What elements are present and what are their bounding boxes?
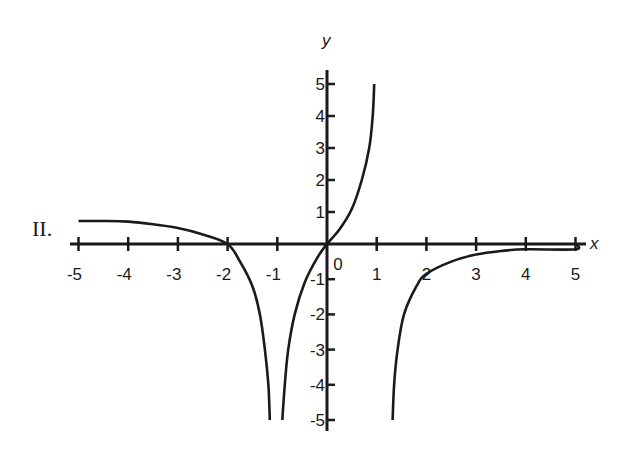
x-tick-label: -4 — [117, 265, 132, 284]
left-branch-curve — [79, 221, 270, 420]
x-tick-label: 0 — [333, 255, 342, 274]
x-axis-label: x — [589, 234, 599, 253]
x-tick-label: 4 — [521, 265, 530, 284]
y-tick-label: 1 — [316, 203, 325, 222]
y-tick-label: 3 — [316, 139, 325, 158]
x-tick-label: -5 — [67, 265, 82, 284]
y-tick-label: -2 — [310, 305, 325, 324]
curves — [79, 84, 580, 420]
y-axis-label: y — [321, 31, 332, 50]
y-tick-label: -4 — [310, 376, 325, 395]
y-tick-label: 5 — [316, 75, 325, 94]
y-tick-label: 2 — [316, 171, 325, 190]
x-tick-label: -3 — [166, 265, 181, 284]
y-tick-label: 4 — [316, 107, 325, 126]
panel-label: II. — [32, 216, 52, 241]
x-tick-label: 1 — [372, 265, 381, 284]
x-tick-label: 3 — [471, 265, 480, 284]
x-tick-label: 5 — [571, 265, 580, 284]
x-tick-label: -1 — [266, 265, 281, 284]
y-tick-label: -1 — [310, 270, 325, 289]
right-branch-curve — [393, 244, 580, 420]
x-tick-label: -2 — [216, 265, 231, 284]
y-tick-label: -5 — [310, 411, 325, 430]
y-tick-label: -3 — [310, 341, 325, 360]
function-graph: -5-4-3-2-1012345-5-4-3-2-112345 II. x y — [0, 0, 628, 457]
tick-labels: -5-4-3-2-1012345-5-4-3-2-112345 — [67, 75, 580, 430]
